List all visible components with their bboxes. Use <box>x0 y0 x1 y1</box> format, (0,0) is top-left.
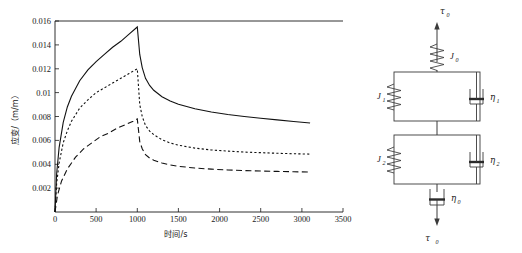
viscoelastic-model-diagram: τ 0 J 0 <box>350 0 522 253</box>
x-tick-label: 1000 <box>129 215 146 224</box>
spring-J0-label: J <box>450 51 455 61</box>
curve-dotted <box>55 69 310 212</box>
x-axis-title: 时间/s <box>164 229 187 239</box>
y-tick-label: 0.006 <box>32 136 51 145</box>
y-tick-label: 0.012 <box>32 65 51 74</box>
y-axis-tick-labels: 0.016 0.014 0.012 0.01 0.008 0.006 0.004… <box>32 17 52 193</box>
spring-J0-sublabel: 0 <box>456 57 459 63</box>
dashpot-eta2-sublabel: 2 <box>497 161 500 167</box>
x-tick-label: 2000 <box>211 215 228 224</box>
stress-bottom-label: τ <box>425 233 430 243</box>
y-tick-label: 0.01 <box>36 89 51 98</box>
x-tick-label: 0 <box>53 215 57 224</box>
y-tick-label: 0.014 <box>32 41 52 50</box>
chart-svg: 0.016 0.014 0.012 0.01 0.008 0.006 0.004… <box>0 0 350 253</box>
model-svg: τ 0 J 0 <box>350 0 522 253</box>
x-tick-label: 3000 <box>294 215 311 224</box>
spring-J2-sublabel: 2 <box>383 160 386 166</box>
kelvin-element-2 <box>387 135 484 184</box>
y-tick-label: 0.016 <box>32 17 51 26</box>
dashpot-eta0-sublabel: 0 <box>458 199 461 205</box>
kelvin-element-1 <box>387 72 484 121</box>
x-tick-label: 3500 <box>335 215 352 224</box>
stress-bottom-sublabel: 0 <box>436 239 439 245</box>
creep-recovery-chart: 0.016 0.014 0.012 0.01 0.008 0.006 0.004… <box>0 0 350 253</box>
dashpot-eta2-label: η <box>490 155 496 165</box>
spring-J1-label: J <box>377 91 382 101</box>
dashpot-eta1-icon <box>469 72 484 121</box>
x-tick-label: 2500 <box>252 215 269 224</box>
arrow-down-stress-icon <box>434 205 439 226</box>
y-tick-label: 0.002 <box>32 184 51 193</box>
dashpot-eta1-label: η <box>490 92 496 102</box>
figure-container: 0.016 0.014 0.012 0.01 0.008 0.006 0.004… <box>0 0 522 253</box>
y-tick-label: 0.004 <box>32 160 52 169</box>
dashpot-eta1-sublabel: 1 <box>497 98 500 104</box>
plot-axes <box>55 21 343 212</box>
y-axis-ticks <box>55 21 59 188</box>
y-axis-title: 应变/（m/m） <box>10 91 20 144</box>
spring-J1-sublabel: 1 <box>383 97 386 103</box>
curve-solid <box>55 27 310 212</box>
dashpot-eta2-icon <box>469 135 484 184</box>
x-axis-tick-labels: 0 500 1000 1500 2000 2500 3000 3500 <box>53 215 351 224</box>
stress-top-sublabel: 0 <box>447 12 450 18</box>
spring-J2-label: J <box>377 154 382 164</box>
x-tick-label: 500 <box>90 215 103 224</box>
y-tick-label: 0.008 <box>32 113 51 122</box>
chart-series-group <box>55 27 310 212</box>
dashpot-eta0-label: η <box>451 193 457 203</box>
x-axis-ticks <box>55 208 343 212</box>
stress-top-label: τ <box>440 6 445 16</box>
curve-dashed <box>55 119 310 212</box>
x-tick-label: 1500 <box>170 215 187 224</box>
